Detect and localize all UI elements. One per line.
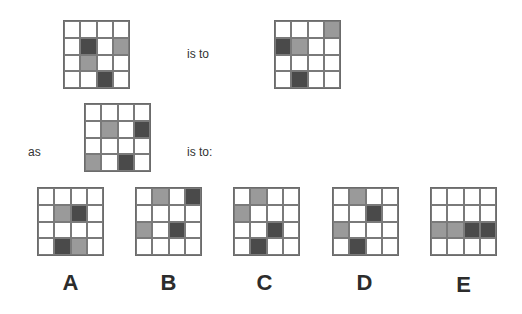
- empty-cell: [97, 21, 113, 38]
- is-to-text: is to: [187, 47, 209, 61]
- empty-cell: [113, 21, 129, 38]
- empty-cell: [267, 205, 283, 222]
- gray-cell: [349, 188, 365, 205]
- empty-cell: [169, 238, 185, 255]
- empty-cell: [480, 188, 496, 205]
- empty-cell: [382, 222, 398, 239]
- empty-cell: [97, 38, 113, 55]
- empty-cell: [38, 205, 54, 222]
- option-c-label[interactable]: C: [231, 270, 298, 296]
- empty-cell: [324, 71, 340, 88]
- dark-cell: [267, 222, 283, 239]
- empty-cell: [283, 188, 299, 205]
- gray-cell: [447, 222, 463, 239]
- empty-cell: [267, 238, 283, 255]
- empty-cell: [464, 188, 480, 205]
- empty-cell: [308, 55, 324, 72]
- empty-cell: [118, 121, 134, 138]
- gray-cell: [333, 222, 349, 239]
- empty-cell: [431, 238, 447, 255]
- empty-cell: [382, 238, 398, 255]
- dark-cell: [54, 238, 70, 255]
- empty-cell: [234, 222, 250, 239]
- empty-cell: [366, 222, 382, 239]
- dark-cell: [80, 38, 96, 55]
- empty-cell: [87, 205, 103, 222]
- empty-cell: [152, 238, 168, 255]
- empty-cell: [38, 222, 54, 239]
- empty-cell: [291, 55, 307, 72]
- gray-cell: [431, 222, 447, 239]
- empty-cell: [38, 188, 54, 205]
- empty-cell: [366, 188, 382, 205]
- grid-first: [63, 20, 130, 89]
- option-b-label[interactable]: B: [135, 270, 202, 296]
- empty-cell: [38, 238, 54, 255]
- empty-cell: [64, 55, 80, 72]
- empty-cell: [169, 205, 185, 222]
- is-to-colon-text: is to:: [187, 145, 212, 159]
- empty-cell: [64, 21, 80, 38]
- empty-cell: [85, 138, 101, 155]
- dark-cell: [366, 205, 382, 222]
- empty-cell: [382, 205, 398, 222]
- empty-cell: [480, 238, 496, 255]
- empty-cell: [283, 222, 299, 239]
- empty-cell: [152, 205, 168, 222]
- empty-cell: [64, 71, 80, 88]
- empty-cell: [234, 188, 250, 205]
- empty-cell: [113, 71, 129, 88]
- dark-cell: [275, 38, 291, 55]
- empty-cell: [136, 188, 152, 205]
- empty-cell: [113, 55, 129, 72]
- as-text: as: [28, 145, 41, 159]
- empty-cell: [366, 238, 382, 255]
- empty-cell: [87, 238, 103, 255]
- option-e-label[interactable]: E: [430, 272, 497, 298]
- dark-cell: [71, 205, 87, 222]
- empty-cell: [275, 21, 291, 38]
- empty-cell: [275, 71, 291, 88]
- empty-cell: [250, 222, 266, 239]
- empty-cell: [308, 38, 324, 55]
- empty-cell: [349, 205, 365, 222]
- empty-cell: [80, 21, 96, 38]
- gray-cell: [234, 205, 250, 222]
- dark-cell: [291, 71, 307, 88]
- empty-cell: [283, 238, 299, 255]
- empty-cell: [185, 238, 201, 255]
- gray-cell: [101, 121, 117, 138]
- empty-cell: [250, 205, 266, 222]
- empty-cell: [267, 188, 283, 205]
- empty-cell: [152, 222, 168, 239]
- option-d-label[interactable]: D: [331, 270, 398, 296]
- gray-cell: [71, 238, 87, 255]
- gray-cell: [250, 188, 266, 205]
- dark-cell: [169, 222, 185, 239]
- empty-cell: [308, 71, 324, 88]
- option-b-grid[interactable]: [135, 187, 202, 256]
- gray-cell: [85, 154, 101, 171]
- empty-cell: [118, 138, 134, 155]
- option-e-grid[interactable]: [430, 187, 497, 256]
- gray-cell: [291, 38, 307, 55]
- empty-cell: [333, 205, 349, 222]
- grid-second: [274, 20, 341, 89]
- option-d-grid[interactable]: [332, 187, 399, 256]
- gray-cell: [152, 188, 168, 205]
- option-a-label[interactable]: A: [37, 270, 104, 296]
- empty-cell: [87, 188, 103, 205]
- empty-cell: [185, 222, 201, 239]
- gray-cell: [324, 21, 340, 38]
- empty-cell: [447, 238, 463, 255]
- empty-cell: [54, 222, 70, 239]
- option-c-grid[interactable]: [233, 187, 300, 256]
- empty-cell: [118, 104, 134, 121]
- empty-cell: [382, 188, 398, 205]
- empty-cell: [349, 222, 365, 239]
- empty-cell: [64, 38, 80, 55]
- option-a-grid[interactable]: [37, 187, 104, 256]
- empty-cell: [333, 188, 349, 205]
- dark-cell: [464, 222, 480, 239]
- dark-cell: [134, 121, 150, 138]
